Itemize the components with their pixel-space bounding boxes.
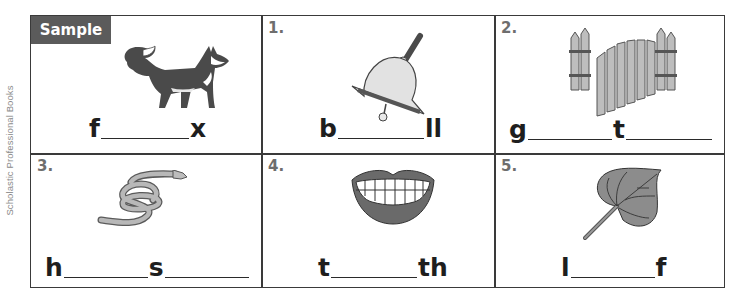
bell-icon — [342, 30, 442, 126]
blank-line[interactable] — [338, 138, 424, 139]
word-letter: th — [418, 255, 448, 280]
word-letter: ll — [425, 116, 442, 141]
fox-icon — [121, 42, 231, 114]
cell-2: 2. g t — [495, 16, 726, 154]
cell-3: 3. h s — [31, 154, 262, 289]
cell-4: 4. t th — [262, 154, 495, 289]
blank-line[interactable] — [626, 139, 712, 140]
word-prompt-hose: h s — [45, 255, 250, 280]
word-letter: f — [656, 255, 667, 280]
word-letter: g — [509, 117, 527, 142]
blank-line[interactable] — [571, 277, 655, 278]
item-number: 1. — [268, 19, 284, 37]
sample-badge: Sample — [31, 16, 111, 44]
item-number: 5. — [501, 157, 517, 175]
blank-line[interactable] — [101, 138, 189, 139]
leaf-icon — [583, 166, 663, 242]
word-letter: b — [319, 116, 337, 141]
cell-1: 1. b ll — [262, 16, 495, 154]
word-letter: t — [318, 255, 330, 280]
teeth-icon — [350, 168, 436, 226]
word-letter: h — [45, 255, 63, 280]
publisher-credit: Scholastic Professional Books — [2, 60, 16, 240]
word-prompt-gate: g t — [509, 117, 713, 142]
word-letter: s — [149, 255, 164, 280]
word-letter: l — [561, 255, 570, 280]
item-number: 4. — [268, 157, 284, 175]
item-number: 2. — [501, 19, 517, 37]
cell-sample: Sample f x — [31, 16, 262, 154]
blank-line[interactable] — [64, 277, 148, 278]
cell-5: 5. l f — [495, 154, 726, 289]
blank-line[interactable] — [528, 139, 612, 140]
word-prompt-bell: b ll — [319, 116, 442, 141]
hose-icon — [97, 170, 189, 228]
word-prompt-fox: f x — [89, 116, 206, 141]
publisher-credit-text: Scholastic Professional Books — [4, 85, 15, 215]
blank-line[interactable] — [165, 277, 249, 278]
blank-line[interactable] — [331, 277, 417, 278]
gate-icon — [567, 28, 679, 118]
word-prompt-leaf: l f — [561, 255, 666, 280]
item-number: 3. — [37, 157, 53, 175]
word-letter: t — [613, 117, 625, 142]
word-prompt-teeth: t th — [318, 255, 448, 280]
worksheet-grid: Sample f x 1. b ll — [30, 15, 725, 288]
word-letter: x — [190, 116, 206, 141]
word-letter: f — [89, 116, 100, 141]
